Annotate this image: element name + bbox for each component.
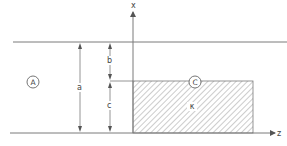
x-axis-label: x <box>131 1 136 10</box>
region-c-label: C <box>192 78 197 87</box>
diagram-canvas: z x a b c A C κ <box>0 0 287 146</box>
dimension-c-bottom-arrow-icon <box>108 126 112 132</box>
dimension-a-top-arrow-icon <box>78 43 82 49</box>
region-c-material-symbol: κ <box>190 102 195 111</box>
dimension-c-top-arrow-icon <box>108 82 112 88</box>
dimension-b-bottom-arrow-icon <box>108 74 112 80</box>
dimension-b-top-arrow-icon <box>108 43 112 49</box>
dimension-a-bottom-arrow-icon <box>78 126 82 132</box>
dimension-a-label: a <box>77 83 82 92</box>
dimension-b-label: b <box>107 56 112 65</box>
region-a-label: A <box>30 78 36 87</box>
z-axis-label: z <box>277 129 281 138</box>
dimension-c-label: c <box>107 101 111 110</box>
